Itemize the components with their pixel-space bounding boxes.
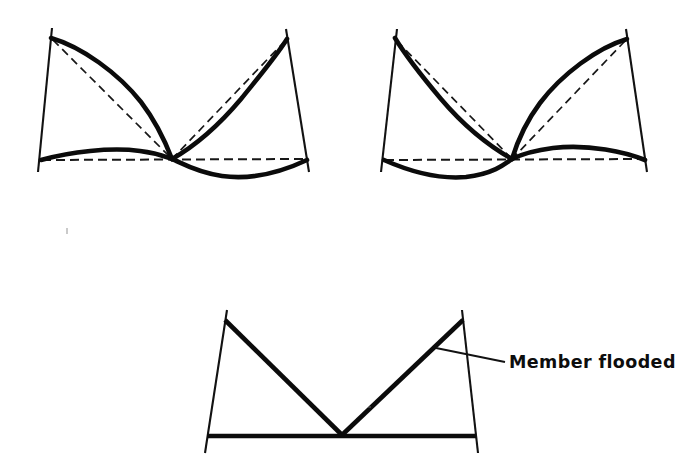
deformation-figure: Member flooded (0, 0, 678, 472)
figure-background (0, 0, 678, 472)
scan-speck-bottom (368, 406, 371, 408)
scan-speck-left (66, 228, 68, 234)
callout-label: Member flooded (509, 352, 676, 372)
